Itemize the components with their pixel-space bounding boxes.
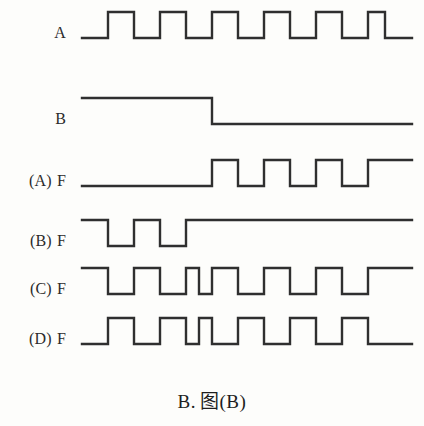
row-label-b-signal: B: [55, 110, 66, 127]
row-label-a: A: [0, 25, 66, 41]
row-label-option-a-signal: F: [57, 172, 66, 189]
row-label-option-c-prefix: (C): [30, 280, 52, 297]
figure-caption: B.图(B): [0, 386, 424, 413]
waveform-trace-f-a: [82, 160, 412, 186]
caption-letter: B.: [178, 391, 196, 412]
caption-text: 图(B): [200, 391, 246, 412]
row-label-option-a-prefix: (A): [29, 172, 52, 189]
waveform-trace-a: [82, 12, 412, 38]
waveform-traces: [82, 12, 412, 344]
row-label-option-b-signal: F: [57, 232, 66, 249]
timing-diagram-figure: A B (A)F (B)F (C)F (D)F B.图(B): [0, 0, 424, 426]
row-label-option-b: (B)F: [0, 233, 66, 249]
row-label-option-c-signal: F: [57, 280, 66, 297]
row-label-a-signal: A: [54, 24, 66, 41]
waveform-trace-f-b: [82, 220, 412, 246]
row-label-option-d-signal: F: [57, 330, 66, 347]
waveform-trace-f-c: [82, 268, 412, 294]
row-label-option-a: (A)F: [0, 173, 66, 189]
row-label-b: B: [0, 111, 66, 127]
row-label-option-b-prefix: (B): [30, 232, 52, 249]
row-label-option-d-prefix: (D): [29, 330, 52, 347]
waveform-trace-f-d: [82, 318, 412, 344]
row-label-option-c: (C)F: [0, 281, 66, 297]
row-label-option-d: (D)F: [0, 331, 66, 347]
waveform-canvas: [0, 0, 424, 426]
waveform-trace-b: [82, 98, 412, 124]
